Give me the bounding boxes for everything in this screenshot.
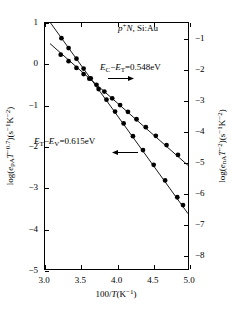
data-point-marker (134, 117, 139, 122)
data-point-marker (74, 56, 79, 61)
data-point-marker (102, 89, 107, 94)
tick-mark (45, 23, 46, 27)
data-point-marker (163, 178, 168, 183)
tick-mark (184, 163, 188, 164)
tick-mark (184, 256, 188, 257)
data-point-marker (81, 72, 86, 77)
axis-tick-label: 0 (34, 59, 39, 68)
data-point-marker (121, 121, 126, 126)
data-point-marker (175, 195, 180, 200)
axis-tick-label: −3 (28, 183, 38, 192)
tick-mark (45, 230, 49, 231)
tick-mark (184, 132, 188, 133)
data-point-marker (66, 59, 71, 64)
tick-mark (45, 64, 49, 65)
data-point-marker (58, 52, 63, 57)
data-point-marker (153, 133, 158, 138)
tick-mark (190, 265, 191, 269)
data-point-marker (131, 134, 136, 139)
data-point-marker (141, 148, 146, 153)
axis-tick-label: −4 (195, 126, 205, 135)
right-y-axis-title: log(enAT−2)(s−1K−2) (216, 109, 229, 182)
left-y-axis-title: log(epAT−0.7)(s−1K−2) (4, 107, 17, 186)
arrow-left-icon (112, 148, 138, 157)
tick-mark (81, 23, 82, 27)
tick-mark (118, 265, 119, 269)
axis-tick-label: −6 (195, 188, 205, 197)
data-point-marker (143, 125, 148, 130)
data-point-marker (88, 76, 93, 81)
axis-tick-label: −8 (195, 250, 205, 259)
axis-tick-label: 4.0 (111, 276, 122, 285)
x-axis-title: 100/T(K−1) (96, 288, 137, 299)
tick-mark (184, 39, 188, 40)
data-point-marker (59, 36, 64, 41)
tick-mark (184, 194, 188, 195)
figure-arrhenius-plot: 10−1−2−3−4−5 −1−2−3−4−5−6−7−8 3.03.54.04… (0, 0, 232, 310)
data-point-marker (66, 46, 71, 51)
data-point-marker (176, 153, 181, 158)
annotation-hole-energy: ET−EV=0.615eV (34, 136, 95, 148)
data-point-marker (74, 66, 79, 71)
annotation-electron-energy: EC−ET=0.548eV (100, 62, 161, 74)
tick-mark (45, 271, 49, 272)
tick-mark (190, 23, 191, 27)
axis-tick-label: −1 (195, 33, 205, 42)
data-point-marker (118, 103, 123, 108)
axis-tick-label: −1 (28, 100, 38, 109)
axis-tick-label: −3 (195, 95, 205, 104)
tick-mark (184, 70, 188, 71)
axis-tick-label: −2 (195, 64, 205, 73)
data-point-marker (126, 109, 131, 114)
fit-line (50, 23, 188, 214)
sample-label: p+N, Si:Au (118, 22, 158, 33)
axis-tick-label: 3.5 (75, 276, 86, 285)
tick-mark (45, 265, 46, 269)
data-point-marker (96, 87, 101, 92)
tick-mark (184, 101, 188, 102)
tick-mark (184, 225, 188, 226)
axis-tick-label: 4.5 (147, 276, 158, 285)
data-point-marker (94, 82, 99, 87)
axis-tick-label: −7 (195, 219, 205, 228)
data-point-marker (81, 66, 86, 71)
fit-line-group (50, 23, 188, 214)
arrow-right-icon (108, 74, 134, 83)
data-point-marker (104, 97, 109, 102)
tick-mark (45, 106, 49, 107)
axis-tick-label: −5 (28, 266, 38, 275)
data-point-marker (113, 109, 118, 114)
axis-tick-label: −5 (195, 157, 205, 166)
tick-mark (45, 188, 49, 189)
data-point-marker (110, 96, 115, 101)
axis-tick-label: −4 (28, 224, 38, 233)
data-point-marker (181, 203, 186, 208)
data-point-marker (164, 143, 169, 148)
data-point-marker (151, 162, 156, 167)
axis-tick-label: 3.0 (38, 276, 49, 285)
tick-mark (154, 265, 155, 269)
tick-mark (81, 265, 82, 269)
axis-tick-label: 1 (34, 18, 39, 27)
axis-tick-label: 5.0 (183, 276, 194, 285)
